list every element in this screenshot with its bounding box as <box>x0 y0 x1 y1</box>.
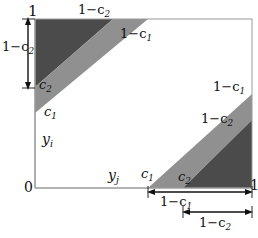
annotation-right-1-minus-c1: 1−c1 <box>213 80 245 96</box>
subscript-2: 2 <box>104 9 110 19</box>
annotation-right-1-minus-c2: 1−c2 <box>201 112 233 128</box>
subscript-2: 2 <box>185 176 191 186</box>
y-axis-tick-label-c1: c1 <box>44 105 57 121</box>
dimension-label-bottom-1-minus-c1: 1−c1 <box>160 195 192 211</box>
subscript-2: 2 <box>46 84 52 94</box>
y-axis-title: yi <box>42 132 53 149</box>
annotation-inner-1-minus-c1: 1−c1 <box>120 27 152 43</box>
x-axis-title: yj <box>108 168 119 185</box>
dimension-label-bottom-1-minus-c2: 1−c2 <box>199 216 231 232</box>
y-axis-tick-label-c2: c2 <box>39 78 52 94</box>
subscript-2: 2 <box>225 222 231 232</box>
subscript-1: 1 <box>186 201 192 211</box>
y-symbol: y <box>108 167 116 183</box>
subscript-1: 1 <box>239 86 245 96</box>
one-minus-prefix: 1− <box>160 194 179 209</box>
x-axis-tick-label-c1: c1 <box>141 167 154 183</box>
annotation-top-1-minus-c2: 1−c2 <box>78 3 110 19</box>
subscript-1: 1 <box>148 173 154 183</box>
subscript-i: i <box>50 138 53 149</box>
subscript-j: j <box>116 174 119 185</box>
one-minus-prefix: 1− <box>120 26 139 41</box>
one-minus-prefix: 1− <box>201 111 220 126</box>
subscript-1: 1 <box>146 33 152 43</box>
one-minus-prefix: 1− <box>213 79 232 94</box>
y-axis-max-label: 1 <box>28 4 38 19</box>
one-minus-prefix: 1− <box>2 39 21 54</box>
dimension-label-left-1-minus-c2: 1−c2 <box>2 40 34 56</box>
one-minus-prefix: 1− <box>78 2 97 17</box>
subscript-2: 2 <box>28 46 34 56</box>
y-symbol: y <box>42 131 50 147</box>
x-axis-max-label: 1 <box>250 178 258 192</box>
figure-unit-square-diagram: 1 1−c2 1−c1 1−c2 c2 c1 yi 0 yj c1 c2 1 1… <box>0 0 258 238</box>
subscript-1: 1 <box>51 111 57 121</box>
one-minus-prefix: 1− <box>199 215 218 230</box>
x-axis-tick-label-c2: c2 <box>178 170 191 186</box>
subscript-2: 2 <box>227 118 233 128</box>
origin-label: 0 <box>24 180 33 194</box>
